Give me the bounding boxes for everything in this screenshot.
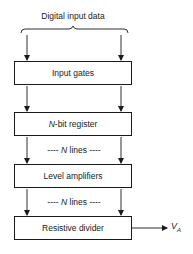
input-brace [21,26,128,33]
bus-label-n-lines: ---- N lines ---- [46,197,101,207]
block-label: Level amplifiers [43,171,102,181]
block-label: Input gates [52,68,94,78]
block-label: Resistive divider [42,223,104,233]
output-voltage-label: VA [171,221,181,233]
input-data-label: Digital input data [41,11,104,21]
block-input-gates: Input gates [14,61,132,85]
block-level-amplifiers: Level amplifiers [14,164,132,188]
block-register: N-bit register [14,112,132,136]
block-resistive-divider: Resistive divider [14,216,132,240]
block-label: N-bit register [49,119,98,129]
bus-label-n-lines: ---- N lines ---- [46,145,101,155]
